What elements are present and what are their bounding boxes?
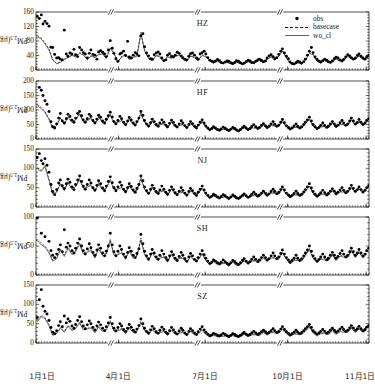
pm25-timeseries-figure: PM2.5(μg/m3)04080120160HZPM2.5(μg/m3)050… <box>0 0 375 387</box>
x-tick-label: 10月1日 <box>272 370 303 381</box>
legend-label: wo_cl <box>313 32 331 39</box>
x-tick-label: 7月1日 <box>192 370 218 381</box>
legend-item-wo_cl: wo_cl <box>284 31 339 40</box>
x-axis-tick-labels: 1月1日4月1日7月1日10月1日11月1日 <box>0 0 375 387</box>
legend-key-marker-icon <box>284 14 310 23</box>
legend-key-dashed-icon <box>284 23 310 32</box>
legend-key-solid-icon <box>284 31 310 40</box>
x-tick-label: 4月1日 <box>106 370 132 381</box>
legend-label: obs <box>313 15 323 22</box>
legend-item-basecase: basecase <box>284 23 339 32</box>
x-tick-label: 1月1日 <box>29 370 55 381</box>
legend-label: basecase <box>313 23 339 30</box>
chart-legend: obsbasecasewo_cl <box>284 14 339 40</box>
x-tick-label: 11月1日 <box>345 370 375 381</box>
